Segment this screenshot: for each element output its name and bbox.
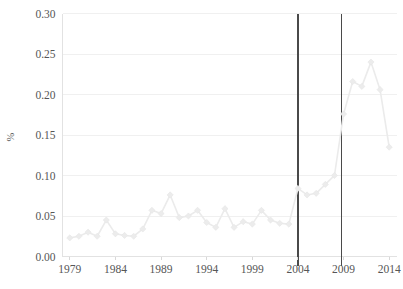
y-axis-title: % [5,132,16,141]
x-tick-label-1999: 1999 [241,263,264,275]
x-tick-label-2014: 2014 [378,263,401,275]
chart-background [0,0,403,289]
x-tick-label-1984: 1984 [104,263,127,275]
x-tick-label-2009: 2009 [332,263,355,275]
x-tick-label-1994: 1994 [195,263,218,275]
x-tick-label-2004: 2004 [286,263,309,275]
y-tick-label-0.15: 0.15 [35,129,55,141]
y-tick-label-0.20: 0.20 [35,89,55,101]
y-tick-label-0.10: 0.10 [35,170,55,182]
y-tick-label-0.30: 0.30 [35,8,55,20]
x-tick-label-1979: 1979 [58,263,81,275]
y-tick-label-0.25: 0.25 [35,48,55,60]
y-tick-label-0.00: 0.00 [35,251,55,263]
y-tick-label-0.05: 0.05 [35,210,55,222]
line-chart: 0.000.050.100.150.200.250.30 19791984198… [0,0,403,289]
chart-canvas: 0.000.050.100.150.200.250.30 19791984198… [0,0,403,289]
y-axis-title-label: % [5,132,16,141]
x-tick-label-1989: 1989 [150,263,173,275]
